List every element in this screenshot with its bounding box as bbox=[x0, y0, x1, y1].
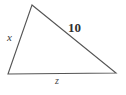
side-label-10: 10 bbox=[68, 21, 81, 34]
side-label-z: z bbox=[55, 76, 59, 86]
triangle-shape bbox=[0, 0, 126, 95]
side-label-x: x bbox=[7, 32, 12, 43]
triangle-outline bbox=[8, 5, 116, 74]
triangle-figure: x 10 z bbox=[0, 0, 126, 95]
